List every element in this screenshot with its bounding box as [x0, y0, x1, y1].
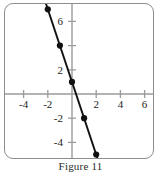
y-tick-label-2: 2 — [58, 64, 64, 76]
y-tick-label--2: -2 — [54, 112, 63, 124]
y-tick-label-6: 6 — [58, 15, 64, 27]
x-tick-label--2: -2 — [43, 98, 52, 110]
data-point — [45, 6, 51, 12]
data-point — [81, 115, 87, 121]
figure-caption: Figure 11 — [0, 160, 161, 172]
plot-frame: -4 -2 2 4 6 6 2 -2 -4 — [4, 3, 154, 159]
x-tick-label-4: 4 — [118, 98, 124, 110]
data-point — [57, 43, 63, 49]
figure-container: -4 -2 2 4 6 6 2 -2 -4 Figure 11 — [0, 0, 161, 174]
coordinate-plane: -4 -2 2 4 6 6 2 -2 -4 — [5, 4, 153, 158]
data-point — [93, 151, 99, 157]
y-tick-label--4: -4 — [54, 136, 64, 148]
data-point — [69, 79, 75, 85]
x-tick-label-2: 2 — [93, 98, 99, 110]
x-tick-label--4: -4 — [19, 98, 29, 110]
x-tick-label-6: 6 — [142, 98, 148, 110]
